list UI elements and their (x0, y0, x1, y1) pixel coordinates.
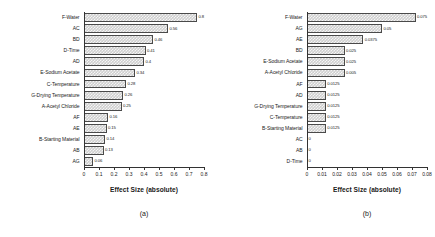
bar-row: 0.0125 (307, 78, 427, 89)
bar-value-label: 0.05 (384, 27, 392, 31)
bar-row: 0.14 (84, 134, 204, 145)
category-label: AC (0, 23, 82, 34)
bar-value-label: 0.13 (105, 148, 113, 152)
bar-row: 0.26 (84, 90, 204, 101)
bar (307, 24, 382, 33)
bar (307, 80, 326, 89)
x-axis-tick (99, 167, 100, 170)
bar (84, 35, 153, 44)
bar-value-label: 0.0125 (327, 115, 339, 119)
bar-value-label: 0.0375 (365, 38, 377, 42)
x-axis-tick-label: 0.5 (156, 172, 163, 177)
bar (84, 157, 93, 166)
bar-value-label: 0.41 (147, 49, 155, 53)
bar (307, 124, 326, 133)
plot-area-b: 0.0750.050.03750.0250.0250.0050.01250.01… (307, 12, 427, 167)
category-label: AF (217, 78, 305, 89)
bar-value-label: 0 (309, 148, 311, 152)
x-axis-tick (144, 167, 145, 170)
category-label: E-Sodium Acetate (0, 67, 82, 78)
bar (84, 91, 123, 100)
bar-row: 0.16 (84, 112, 204, 123)
bar-row: 0 (307, 145, 427, 156)
y-axis-line-b (307, 12, 308, 167)
bar (307, 57, 345, 66)
bar-value-label: 0.26 (125, 93, 133, 97)
x-axis-tick-label: 0.2 (111, 172, 118, 177)
bar-value-label: 0.0125 (327, 104, 339, 108)
chart-panel-a: F-WaterACBDD-TimeADE-Sodium AcetateC-Tem… (0, 0, 217, 237)
bar (84, 46, 146, 55)
figure-container: F-WaterACBDD-TimeADE-Sodium AcetateC-Tem… (0, 0, 435, 237)
category-label: AF (0, 112, 82, 123)
x-axis-tick (189, 167, 190, 170)
x-axis-tick (159, 167, 160, 170)
bar (84, 113, 108, 122)
category-label: D-Time (0, 45, 82, 56)
category-label: AC (217, 134, 305, 145)
bar (307, 13, 416, 22)
bar-row: 0.025 (307, 45, 427, 56)
x-axis-tick (129, 167, 130, 170)
bar-row: 0.0125 (307, 123, 427, 134)
bar-value-label: 0.075 (417, 15, 427, 19)
bar (84, 146, 104, 155)
bar (84, 13, 197, 22)
x-axis-tick (307, 167, 308, 170)
x-axis-tick (367, 167, 368, 170)
bar-row: 0.15 (84, 123, 204, 134)
category-label: AB (217, 145, 305, 156)
category-label: D-Time (217, 156, 305, 167)
bar-value-label: 0.46 (155, 38, 163, 42)
x-axis-tick (322, 167, 323, 170)
bar-value-label: 0.4 (146, 60, 152, 64)
bar-rows-b: 0.0750.050.03750.0250.0250.0050.01250.01… (307, 12, 427, 167)
category-labels-a: F-WaterACBDD-TimeADE-Sodium AcetateC-Tem… (0, 12, 82, 167)
bar-row: 0 (307, 134, 427, 145)
x-axis-title-a: Effect Size (absolute) (84, 186, 204, 193)
bar (84, 80, 126, 89)
category-label: B-Starting Material (0, 134, 82, 145)
bar-row: 0.34 (84, 67, 204, 78)
bar-row: 0.0125 (307, 90, 427, 101)
category-label: AD (0, 56, 82, 67)
x-axis-tick-labels-b: 00.010.020.030.040.050.060.070.08 (307, 172, 427, 181)
bar (307, 91, 326, 100)
bar-value-label: 0.56 (170, 27, 178, 31)
chart-panel-b: F-WaterAGAEBDE-Sodium AcetateA-Acetyl Ch… (217, 0, 435, 237)
bar-value-label: 0.025 (346, 60, 356, 64)
bar-row: 0.05 (307, 23, 427, 34)
bar (307, 102, 326, 111)
bar-value-label: 0.34 (137, 71, 145, 75)
bar-row: 0.025 (307, 56, 427, 67)
bar (307, 35, 363, 44)
bar-value-label: 0.005 (346, 71, 356, 75)
category-label: C-Temperature (0, 78, 82, 89)
plot-area-a: 0.80.560.460.410.40.340.280.260.250.160.… (84, 12, 204, 167)
bar-row: 0.4 (84, 56, 204, 67)
x-axis-tick-label: 0.6 (171, 172, 178, 177)
x-axis-tick-label: 0.8 (201, 172, 208, 177)
bar-row: 0.075 (307, 12, 427, 23)
category-labels-b: F-WaterAGAEBDE-Sodium AcetateA-Acetyl Ch… (217, 12, 305, 167)
bar-value-label: 0.15 (108, 126, 116, 130)
x-axis-tick-label: 0.07 (407, 172, 417, 177)
bar-value-label: 0.025 (346, 49, 356, 53)
panel-caption-a: (a) (84, 210, 204, 217)
panel-caption-b: (b) (307, 210, 427, 217)
x-axis-tick (382, 167, 383, 170)
x-axis-tick-label: 0.06 (392, 172, 402, 177)
bar-value-label: 0.16 (110, 115, 118, 119)
bar (307, 69, 345, 78)
bar-value-label: 0.25 (123, 104, 131, 108)
category-label: AE (217, 34, 305, 45)
x-axis-tick-label: 0.7 (186, 172, 193, 177)
bar-row: 0.0375 (307, 34, 427, 45)
bar (84, 124, 107, 133)
bar-row: 0.13 (84, 145, 204, 156)
x-axis-tick-label: 0.1 (96, 172, 103, 177)
x-axis-tick-labels-a: 00.10.20.30.40.50.60.70.8 (84, 172, 204, 181)
category-label: AB (0, 145, 82, 156)
bar-value-label: 0.28 (128, 82, 136, 86)
category-label: A-Acetyl Chloride (217, 67, 305, 78)
